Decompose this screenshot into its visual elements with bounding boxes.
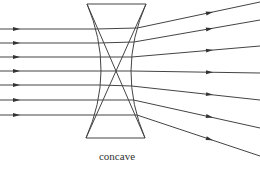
arrowhead-icon — [206, 48, 213, 53]
outgoing-ray — [137, 2, 260, 28]
arrowhead-icon — [13, 98, 20, 102]
ray-inside-lens — [100, 85, 131, 86]
lens-caption: concave — [92, 150, 142, 162]
arrowhead-icon — [13, 55, 20, 59]
arrowhead-icon — [13, 69, 20, 73]
outgoing-ray — [132, 46, 260, 57]
outgoing-ray — [134, 100, 260, 128]
arrowhead-icon — [206, 114, 214, 119]
arrowhead-icon — [13, 27, 20, 31]
arrowhead-icon — [13, 83, 20, 87]
arrowhead-icon — [206, 10, 214, 15]
outgoing-ray — [137, 115, 260, 156]
outgoing-diverging-rays — [131, 2, 260, 156]
ray-inside-lens — [96, 28, 138, 29]
outgoing-ray — [131, 71, 260, 73]
incoming-parallel-rays — [0, 28, 137, 115]
arrowhead-icon — [13, 41, 20, 45]
outgoing-ray — [132, 86, 260, 100]
outgoing-ray — [134, 20, 260, 42]
arrowhead-icon — [206, 70, 213, 74]
arrowhead-icon — [206, 136, 214, 142]
arrowhead-icon — [13, 113, 20, 117]
